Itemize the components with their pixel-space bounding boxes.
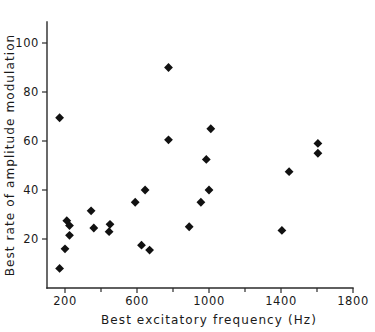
y-tick-label-80: 80 [23, 85, 39, 99]
data-point-17 [197, 198, 206, 207]
data-point-18 [202, 155, 211, 164]
y-axis-title: Best rate of amplitude modulation [3, 34, 17, 277]
data-point-10 [131, 198, 140, 207]
data-point-15 [164, 135, 173, 144]
x-tick-label-1400: 1400 [265, 294, 297, 308]
data-point-8 [106, 220, 115, 229]
data-point-1 [55, 264, 64, 273]
x-axis-title: Best excitatory frequency (Hz) [101, 313, 317, 327]
data-point-13 [145, 246, 154, 255]
scatter-plot-figure: 20406080100200600100014001800Best excita… [0, 0, 375, 332]
data-point-23 [314, 139, 323, 148]
data-point-2 [61, 244, 70, 253]
data-point-14 [164, 63, 173, 72]
data-point-12 [137, 241, 146, 250]
x-tick-label-1800: 1800 [337, 294, 369, 308]
data-point-9 [105, 227, 114, 236]
data-point-24 [314, 149, 323, 158]
x-tick-label-200: 200 [53, 294, 77, 308]
x-tick-label-1000: 1000 [193, 294, 225, 308]
y-tick-label-100: 100 [15, 36, 39, 50]
y-tick-label-40: 40 [23, 183, 39, 197]
x-tick-label-600: 600 [125, 294, 149, 308]
data-point-5 [65, 231, 74, 240]
data-point-7 [89, 224, 98, 233]
data-point-16 [185, 222, 194, 231]
data-point-20 [206, 124, 215, 133]
data-point-0 [55, 113, 64, 122]
data-point-6 [87, 206, 96, 215]
y-tick-label-20: 20 [23, 232, 39, 246]
y-tick-label-60: 60 [23, 134, 39, 148]
data-point-19 [205, 186, 214, 195]
data-point-11 [141, 186, 150, 195]
data-point-22 [285, 167, 294, 176]
plot-canvas: 20406080100200600100014001800Best excita… [0, 0, 375, 332]
data-point-21 [278, 226, 287, 235]
